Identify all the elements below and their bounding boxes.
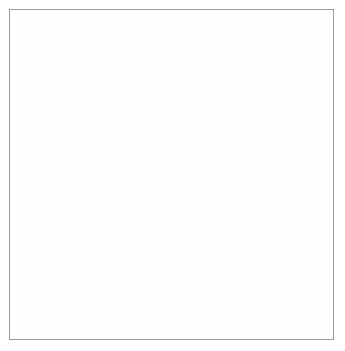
figure-root (0, 0, 345, 351)
life-cycle-diagram (0, 0, 345, 351)
